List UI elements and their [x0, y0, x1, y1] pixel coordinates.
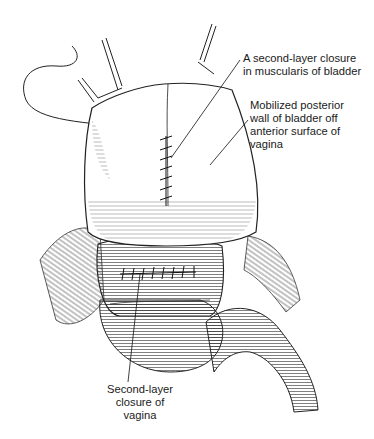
retractor-right [198, 24, 216, 74]
label-mobilized-wall: Mobilized posterior wall of bladder off … [250, 99, 344, 151]
tissue-left [40, 228, 104, 324]
label-vagina-closure: Second-layer closure of vagina [90, 383, 190, 422]
vagina [97, 238, 224, 316]
label-bladder-closure: A second-layer closure in muscularis of … [243, 52, 361, 78]
right-fold [206, 308, 318, 412]
tissue-right [244, 236, 300, 312]
retractor-left [78, 38, 122, 102]
